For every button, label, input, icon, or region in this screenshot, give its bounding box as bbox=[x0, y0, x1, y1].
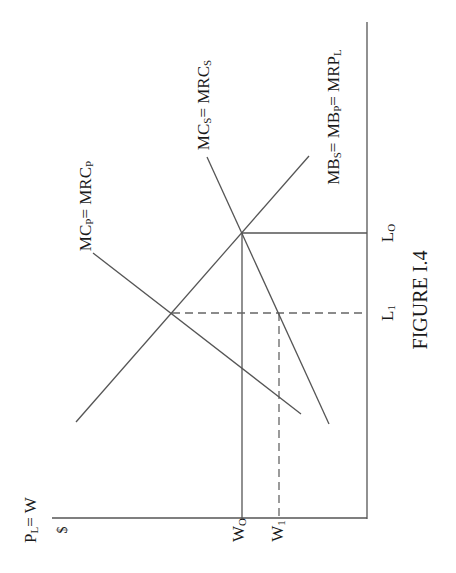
figure-caption: FIGURE I.4 bbox=[409, 251, 431, 350]
label-subscript: O bbox=[385, 224, 397, 232]
label-subscript: L bbox=[331, 49, 343, 56]
mc-social-label: MCS= MRCS bbox=[194, 60, 214, 150]
mb-label: MBS= MBP= MRPL bbox=[324, 49, 344, 185]
label-part: = W bbox=[21, 496, 40, 527]
w0-tick-label: WO bbox=[229, 518, 249, 542]
dollar-unit-label: $ bbox=[55, 527, 70, 534]
l1-tick-label: L1 bbox=[378, 305, 398, 321]
mc-private-label: MCP= MRCP bbox=[76, 161, 96, 251]
label-subscript: P bbox=[83, 161, 95, 167]
label-part: MC bbox=[194, 124, 213, 150]
label-part: MC bbox=[76, 225, 95, 251]
label-subscript: S bbox=[201, 60, 213, 66]
label-part: = MB bbox=[324, 112, 343, 152]
label-part: = MRP bbox=[324, 56, 343, 106]
label-subscript: O bbox=[236, 518, 248, 526]
label-part: = MRC bbox=[194, 66, 213, 118]
w1-tick-label: W1 bbox=[268, 520, 288, 542]
mb-curve bbox=[76, 156, 309, 422]
label-part: W bbox=[268, 525, 287, 542]
label-part: L bbox=[378, 232, 397, 242]
price-axis-label: PL= W bbox=[21, 496, 41, 543]
label-subscript: 1 bbox=[385, 305, 397, 311]
label-subscript: 1 bbox=[275, 520, 287, 526]
l0-tick-label: LO bbox=[378, 224, 398, 242]
figure-diagram: MCP= MRCP MCS= MRCS MBS= MBP= MRPL PL= W… bbox=[0, 0, 456, 573]
label-part: W bbox=[229, 525, 248, 542]
label-part: P bbox=[21, 533, 40, 542]
mc-private-curve bbox=[93, 253, 301, 414]
label-part: L bbox=[378, 311, 397, 321]
label-part: MB bbox=[324, 158, 343, 184]
mc-social-curve bbox=[207, 157, 329, 424]
label-part: = MRC bbox=[76, 167, 95, 219]
